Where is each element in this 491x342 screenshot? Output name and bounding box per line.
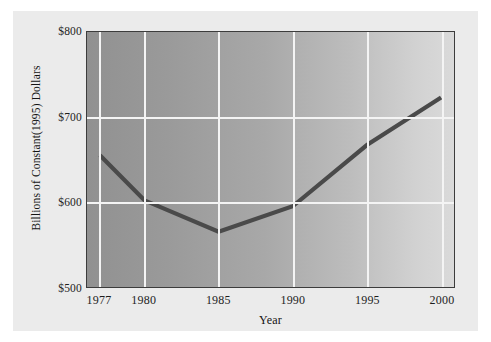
chart-figure: Billions of Constant(1995) Dollars $800$… bbox=[0, 0, 491, 342]
x-tick-label: 2000 bbox=[412, 293, 472, 308]
plot-area bbox=[86, 31, 455, 288]
gridline-vertical-1990 bbox=[293, 32, 295, 287]
y-tick-label: $800 bbox=[28, 25, 82, 37]
gridline-horizontal-$700 bbox=[87, 117, 454, 119]
gridline-vertical-1995 bbox=[367, 32, 369, 287]
y-tick-label: $700 bbox=[28, 111, 82, 123]
gridline-vertical-1977 bbox=[99, 32, 101, 287]
x-tick-label: 1985 bbox=[188, 293, 248, 308]
x-tick-label: 1990 bbox=[263, 293, 323, 308]
gridline-vertical-2000 bbox=[442, 32, 444, 287]
gridline-vertical-1980 bbox=[144, 32, 146, 287]
data-series-line bbox=[87, 32, 454, 287]
y-axis-tick-labels: $800$700$600$500 bbox=[24, 31, 82, 288]
x-tick-label: 1980 bbox=[114, 293, 174, 308]
gridline-vertical-1985 bbox=[218, 32, 220, 287]
x-axis-tick-labels: 197719801985199019952000 bbox=[86, 293, 455, 309]
x-axis-title: Year bbox=[86, 313, 455, 328]
y-tick-label: $600 bbox=[28, 196, 82, 208]
x-tick-label: 1995 bbox=[337, 293, 397, 308]
gridline-horizontal-$600 bbox=[87, 202, 454, 204]
